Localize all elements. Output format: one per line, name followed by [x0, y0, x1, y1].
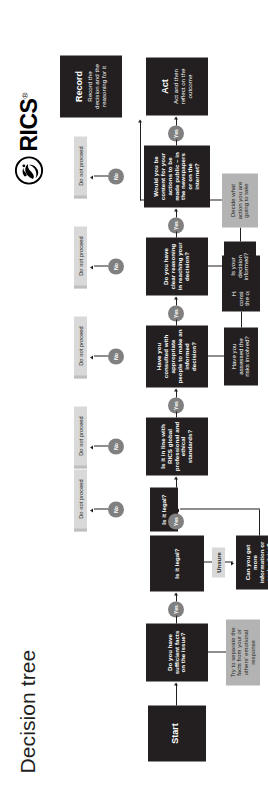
connector-risks-to-options — [241, 311, 242, 327]
node-question-facts: Do you have sufficient facts on the issu… — [146, 623, 208, 681]
arrow-public-yes — [174, 116, 178, 119]
do-not-proceed-3: Do not proceed — [74, 316, 87, 378]
decision-tree-diagram: Decision tree RICS® Start Do you have su… — [0, 0, 268, 785]
rics-logo: RICS® — [14, 93, 44, 185]
pill-no-legal-2: No — [108, 501, 124, 517]
pill-no-standards: No — [108, 438, 124, 454]
arrow-facts-yes — [174, 592, 178, 595]
arrow-consulted-yes — [174, 296, 178, 299]
connector-consulted-yes — [176, 319, 177, 325]
rics-wordmark: RICS® — [18, 93, 41, 151]
arrow-dnp-2 — [90, 445, 93, 449]
arrow-standards-yes — [174, 388, 178, 391]
connector-dnp-2 — [94, 445, 108, 446]
do-not-proceed-4: Do not proceed — [74, 226, 87, 288]
arrow-legal1-unsure — [231, 561, 234, 565]
node-question-standards: Is it in line with RICS global professio… — [146, 417, 208, 475]
node-question-standards-text: Is it in line with RICS global professio… — [160, 421, 195, 471]
node-question-legal-1: Is it legal? — [150, 535, 204, 591]
pill-no-reasoning: No — [108, 258, 124, 274]
node-question-public: Would you be content for your actions to… — [144, 145, 210, 207]
connector-moreinfo-yes — [259, 509, 260, 535]
node-question-reasoning: Do you have clear reasoning in reaching … — [146, 237, 208, 295]
connector-dnp-3 — [94, 355, 108, 356]
connector-informed-to-action — [240, 227, 241, 241]
arrow-dnp-4 — [90, 265, 93, 269]
node-decide-action-text: Decide what action you are going to take — [230, 177, 250, 223]
node-question-public-text: Would you be content for your actions to… — [153, 149, 202, 203]
connector-public-yes — [176, 139, 177, 145]
connector-legal1-unsure — [204, 561, 212, 562]
node-question-risks: Have you assessed the risks involved? — [224, 327, 258, 385]
node-question-risks-text: Have you assessed the risks involved? — [231, 331, 252, 381]
node-question-legal-1-text: Is it legal? — [174, 548, 181, 578]
connector-reasoning-yes — [176, 231, 177, 237]
arrow-dnp-3 — [90, 355, 93, 359]
node-decide-action: Decide what action you are going to take — [222, 173, 258, 227]
connector-action-to-record-h — [140, 120, 141, 200]
node-act-heading: Act — [160, 79, 170, 94]
node-start-heading: Start — [170, 723, 180, 744]
connector-dnp-5 — [94, 175, 108, 176]
arrow-start-to-facts — [174, 682, 178, 685]
node-question-facts-text: Do you have sufficient facts on the issu… — [167, 627, 188, 677]
node-question-consulted: Have you consulted with appropriate peop… — [146, 325, 208, 387]
connector-dnp-1 — [94, 508, 108, 509]
node-question-consulted-text: Have you consulted with appropriate peop… — [156, 329, 198, 383]
node-act-body: Act and then reflect on the outcome — [173, 61, 194, 111]
pill-yes-legal-1: Yes — [168, 513, 184, 529]
connector-moreinfo-yes-v — [180, 508, 260, 509]
pill-no-public: No — [108, 168, 124, 184]
connector-reasoning-to-informed — [208, 265, 224, 266]
node-start: Start — [148, 705, 206, 761]
connector-facts-yes — [176, 615, 177, 623]
arrow-dnp-5 — [90, 175, 93, 179]
connector-facts-to-emotions — [208, 651, 226, 652]
pill-no-consulted: No — [108, 348, 124, 364]
do-not-proceed-2: Do not proceed — [74, 406, 87, 468]
node-question-informed: Is your decision informed? — [224, 241, 256, 291]
node-question-informed-text: Is your decision informed? — [230, 245, 251, 287]
page-title: Decision tree — [16, 649, 40, 773]
node-question-more-info-text: Can you get more information or seek adv… — [245, 539, 268, 585]
rics-crest-icon — [14, 155, 44, 185]
do-not-proceed-5: Do not proceed — [74, 136, 87, 198]
arrow-reasoning-yes — [174, 208, 178, 211]
node-act: Act Act and then reflect on the outcome — [146, 57, 208, 115]
connector-dnp-4 — [94, 265, 108, 266]
arrow-dnp-1 — [90, 508, 93, 512]
node-record-heading: Record — [74, 71, 84, 102]
node-question-reasoning-text: Do you have clear reasoning in reaching … — [163, 241, 191, 291]
node-record: Record Record the decision and the reaso… — [60, 55, 122, 117]
connector-start-to-facts — [176, 683, 177, 705]
arrow-legal1-yes — [174, 476, 178, 479]
node-record-body: Record the decision and the reasoning fo… — [87, 59, 108, 113]
node-separate-emotions: Try to separate the facts from your or o… — [226, 619, 260, 685]
connector-standards-yes — [176, 411, 177, 417]
node-question-legal-2-text: Is it legal? — [161, 494, 168, 524]
node-separate-emotions-text: Try to separate the facts from your or o… — [230, 623, 257, 681]
arrow-action-to-record — [138, 119, 142, 122]
connector-consulted-to-risks — [208, 355, 224, 356]
do-not-proceed-1: Do not proceed — [74, 469, 87, 531]
node-question-more-info: Can you get more information or seek adv… — [236, 535, 268, 589]
pill-unsure-legal-1: Unsure — [212, 547, 225, 577]
